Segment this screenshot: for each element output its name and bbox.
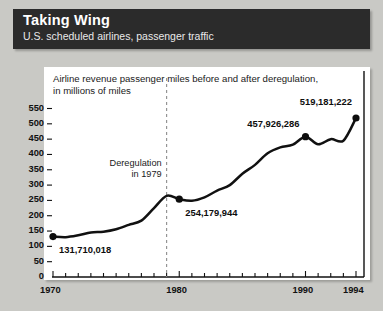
data-point-markers xyxy=(49,114,359,240)
svg-text:Deregulation: Deregulation xyxy=(110,158,162,168)
svg-text:457,926,286: 457,926,286 xyxy=(247,118,299,129)
svg-text:in 1979: in 1979 xyxy=(131,169,161,179)
svg-text:519,181,222: 519,181,222 xyxy=(300,96,352,107)
svg-text:131,710,018: 131,710,018 xyxy=(59,244,111,255)
data-series-line xyxy=(53,118,356,237)
chart-page: Taking Wing U.S. scheduled airlines, pas… xyxy=(0,0,383,311)
deregulation-annotation: Deregulationin 1979 xyxy=(110,158,162,179)
line-chart-plot: 131,710,018254,179,944457,926,286519,181… xyxy=(0,0,383,311)
svg-text:254,179,944: 254,179,944 xyxy=(185,207,238,218)
